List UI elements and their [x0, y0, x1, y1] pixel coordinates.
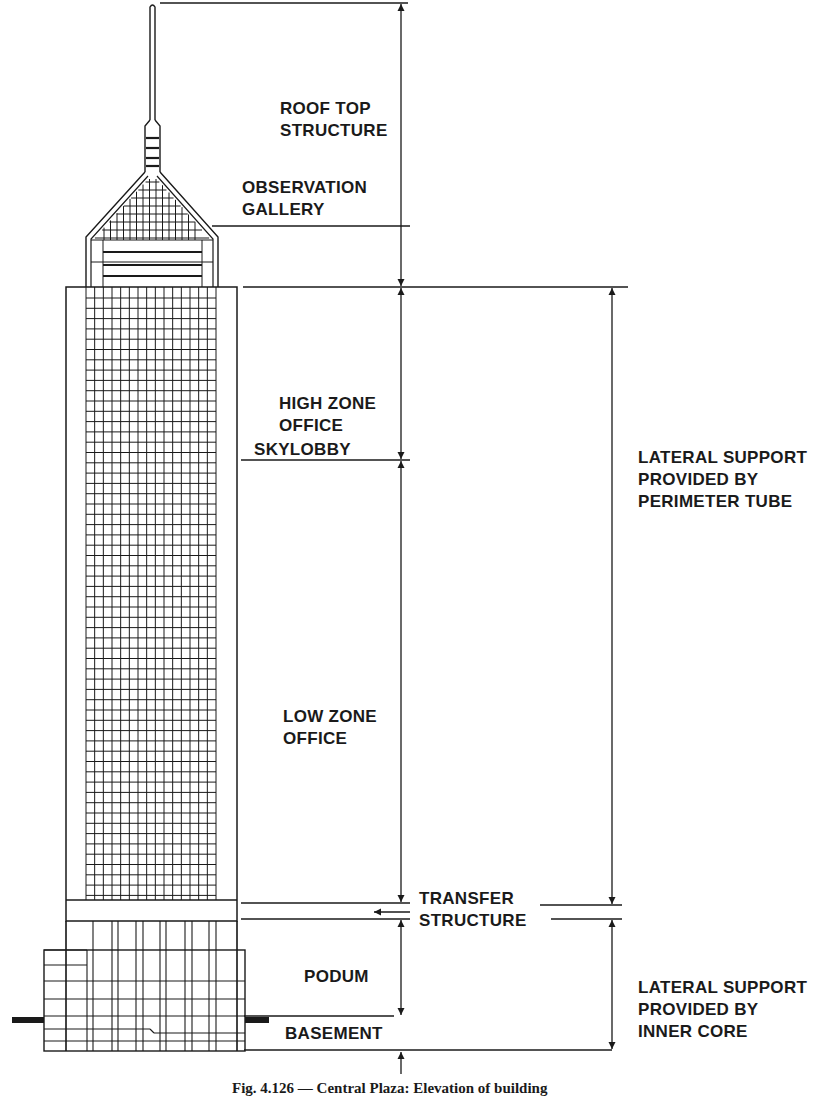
figure-caption: Fig. 4.126 — Central Plaza: Elevation of…	[232, 1080, 547, 1097]
label-roof-top-structure: ROOF TOP STRUCTURE	[280, 98, 388, 142]
label-line: STRUCTURE	[280, 120, 388, 142]
label-basement: BASEMENT	[285, 1023, 383, 1045]
label-skylobby: SKYLOBBY	[254, 439, 351, 461]
label-low-zone-office: LOW ZONE OFFICE	[283, 706, 377, 750]
label-high-zone-office: HIGH ZONE OFFICE	[279, 393, 376, 437]
tower-shaft	[66, 287, 237, 921]
label-observation-gallery: OBSERVATION GALLERY	[242, 177, 367, 221]
label-line: PERIMETER TUBE	[638, 491, 807, 513]
podium-block	[12, 921, 269, 1051]
label-line: GALLERY	[242, 199, 367, 221]
dimension-lines	[160, 3, 628, 1074]
label-line: ROOF TOP	[280, 98, 388, 120]
label-line: LATERAL SUPPORT	[638, 977, 807, 999]
ground-line-left	[12, 1017, 44, 1023]
label-lateral-support-perimeter-tube: LATERAL SUPPORT PROVIDED BY PERIMETER TU…	[638, 447, 807, 513]
label-line: HIGH ZONE	[279, 393, 376, 415]
observation-gallery-crown	[86, 172, 218, 287]
label-line: STRUCTURE	[419, 910, 527, 932]
label-line: OFFICE	[283, 728, 377, 750]
ground-line-right	[245, 1017, 269, 1023]
label-transfer-structure: TRANSFER STRUCTURE	[419, 888, 527, 932]
label-line: PROVIDED BY	[638, 999, 807, 1021]
label-line: INNER CORE	[638, 1021, 807, 1043]
label-line: LATERAL SUPPORT	[638, 447, 807, 469]
label-line: OFFICE	[279, 415, 376, 437]
label-podium: PODUM	[304, 966, 369, 988]
label-line: LOW ZONE	[283, 706, 377, 728]
label-lateral-support-inner-core: LATERAL SUPPORT PROVIDED BY INNER CORE	[638, 977, 807, 1043]
label-line: TRANSFER	[419, 888, 527, 910]
spire	[145, 5, 160, 172]
label-line: PROVIDED BY	[638, 469, 807, 491]
label-line: OBSERVATION	[242, 177, 367, 199]
